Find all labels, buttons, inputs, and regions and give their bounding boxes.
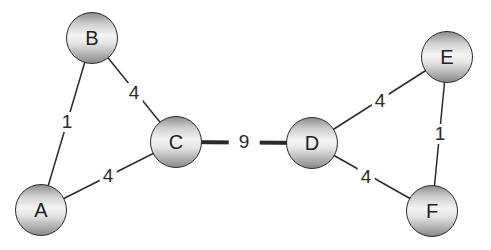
- edge-weight-a-c: 4: [100, 166, 117, 186]
- edge-weight-d-e: 4: [372, 91, 389, 111]
- node-e-label: E: [440, 46, 453, 69]
- node-f: F: [406, 185, 458, 237]
- node-f-label: F: [426, 200, 438, 223]
- node-c-label: C: [169, 131, 183, 154]
- node-d-label: D: [305, 132, 319, 155]
- edge-weight-b-c: 4: [126, 83, 143, 103]
- edge-weight-c-d: 9: [229, 132, 260, 152]
- edge-weight-a-b: 1: [59, 112, 76, 132]
- node-a: A: [15, 184, 67, 236]
- node-e: E: [421, 31, 473, 83]
- edge-weight-e-f: 1: [432, 124, 449, 144]
- node-c: C: [150, 116, 202, 168]
- node-a-label: A: [34, 199, 47, 222]
- graph-diagram: 1 4 4 9 4 4 1 A B C D E F: [0, 0, 491, 250]
- node-b-label: B: [85, 27, 98, 50]
- edge-weight-d-f: 4: [358, 167, 375, 187]
- node-d: D: [286, 117, 338, 169]
- node-b: B: [66, 12, 118, 64]
